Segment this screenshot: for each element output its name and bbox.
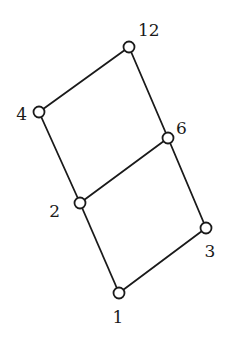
edge-3-6 [168,138,206,228]
edge-6-12 [129,47,168,138]
node-12 [124,42,135,53]
node-6 [163,133,174,144]
hasse-diagram: 1234612 [0,0,227,342]
nodes-group [34,42,212,299]
edge-2-4 [39,112,80,203]
node-label-3: 3 [205,241,216,261]
node-label-1: 1 [113,307,124,327]
node-2 [75,198,86,209]
node-4 [34,107,45,118]
edge-2-6 [80,138,168,203]
node-label-12: 12 [138,20,160,40]
edge-1-3 [119,228,206,293]
edge-1-2 [80,203,119,293]
labels-group: 1234612 [16,20,215,327]
edge-4-12 [39,47,129,112]
edges-group [39,47,206,293]
node-label-4: 4 [16,104,27,124]
node-label-2: 2 [49,201,60,221]
node-label-6: 6 [176,118,187,138]
node-1 [114,288,125,299]
node-3 [201,223,212,234]
